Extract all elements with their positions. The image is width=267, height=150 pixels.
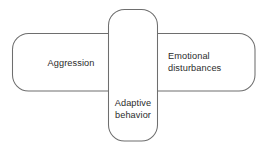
set-label-aggression: Aggression [48, 58, 95, 68]
venn-diagram-canvas: Aggression Emotional disturbances Adapti… [0, 0, 267, 150]
set-label-adaptive-behavior-line2: behavior [115, 110, 151, 120]
set-label-adaptive-behavior-line1: Adaptive [115, 98, 152, 108]
set-label-emotional-disturbances-line2: disturbances [168, 63, 222, 73]
set-shape-adaptive-behavior[interactable] [109, 10, 158, 142]
set-label-emotional-disturbances-line1: Emotional [168, 51, 210, 61]
venn-diagram-container: Aggression Emotional disturbances Adapti… [0, 0, 267, 150]
